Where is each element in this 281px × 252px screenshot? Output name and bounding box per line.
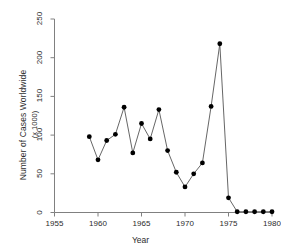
data-point-marker xyxy=(165,148,170,153)
data-point-marker xyxy=(174,170,179,175)
data-point-marker xyxy=(96,157,101,162)
y-tick-label: 250 xyxy=(34,7,43,31)
data-point-marker xyxy=(139,121,144,126)
x-axis-label: Year xyxy=(0,235,281,245)
data-point-marker xyxy=(183,185,188,190)
data-point-marker xyxy=(87,134,92,139)
y-tick-label: 50 xyxy=(34,161,43,185)
data-point-marker xyxy=(104,138,109,143)
y-tick-label: 150 xyxy=(34,84,43,108)
data-point-marker xyxy=(122,105,127,110)
x-tick-label: 1955 xyxy=(40,219,70,228)
data-point-marker xyxy=(235,209,240,214)
y-tick-label: 200 xyxy=(34,45,43,69)
x-tick-label: 1975 xyxy=(214,219,244,228)
x-tick-label: 1965 xyxy=(127,219,157,228)
x-tick-label: 1970 xyxy=(170,219,200,228)
data-point-marker xyxy=(113,132,118,137)
data-point-marker xyxy=(244,209,249,214)
data-point-marker xyxy=(209,104,214,109)
x-tick-label: 1980 xyxy=(257,219,281,228)
data-point-marker xyxy=(157,107,162,112)
data-point-marker xyxy=(270,209,275,214)
data-point-marker xyxy=(130,151,135,156)
chart-figure: Number of Cases Worldwide (x 1000) Year … xyxy=(0,0,281,252)
x-tick-label: 1960 xyxy=(83,219,113,228)
y-tick-label: 100 xyxy=(34,123,43,147)
data-point-marker xyxy=(200,161,205,166)
y-axis-label: Number of Cases Worldwide xyxy=(18,40,28,210)
data-point-marker xyxy=(217,41,222,46)
data-point-marker xyxy=(191,171,196,176)
data-point-marker xyxy=(226,195,231,200)
data-point-marker xyxy=(261,209,266,214)
data-point-marker xyxy=(252,209,257,214)
data-point-marker xyxy=(148,137,153,142)
